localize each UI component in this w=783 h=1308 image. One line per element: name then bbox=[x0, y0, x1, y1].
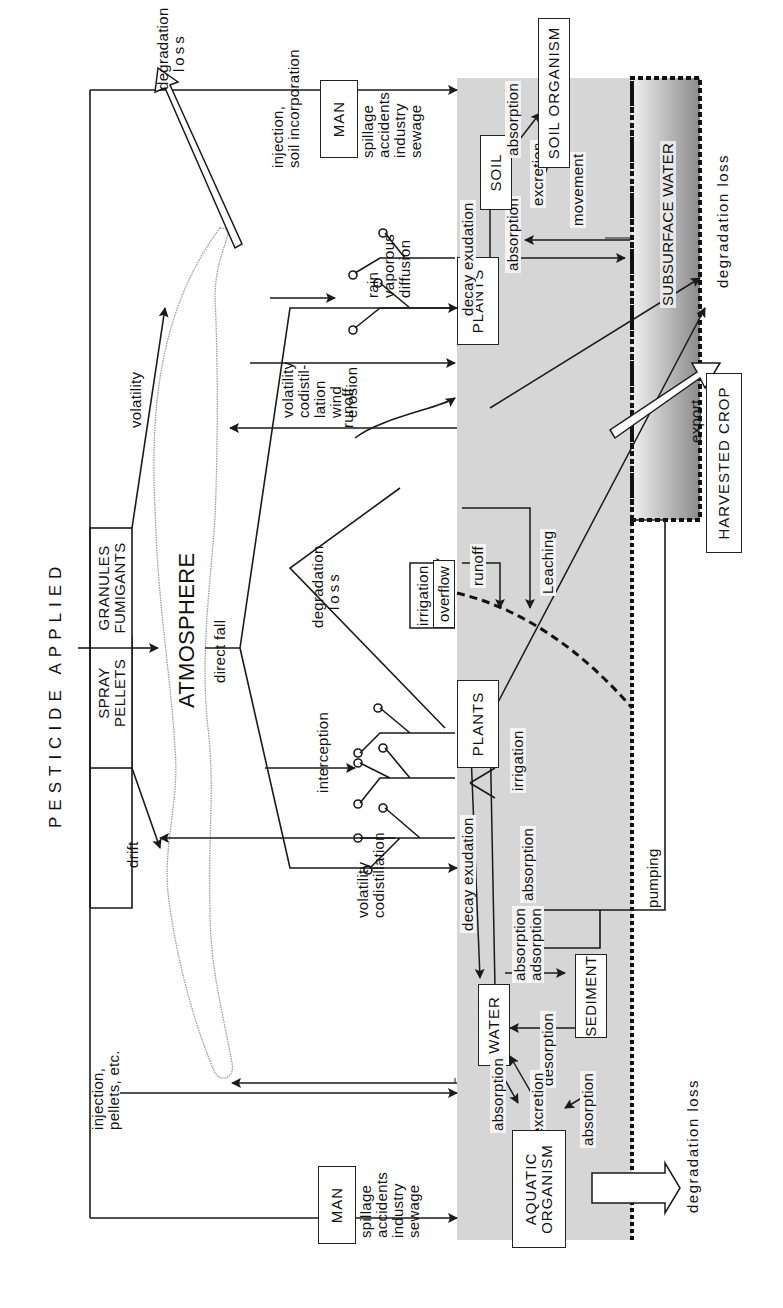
degradation-loss-aquatic-label: degradation loss bbox=[685, 1079, 701, 1213]
absorption-adsorption-label: absorption adsorption bbox=[512, 906, 544, 983]
absorption-aquatic-2-label: absorption bbox=[580, 1071, 596, 1148]
volatility-text: volatility bbox=[280, 362, 296, 418]
sewage-text: sewage bbox=[406, 1172, 422, 1238]
organism-text: ORGANISM bbox=[539, 1144, 555, 1234]
soil-organism-box: SOIL ORGANISM bbox=[538, 18, 570, 168]
drift-label: drift bbox=[125, 841, 141, 868]
excretion-aquatic-label: excretion bbox=[530, 1070, 546, 1138]
degradation-loss-mid-label: degradation loss bbox=[310, 545, 342, 628]
overflow-box: overflow bbox=[433, 560, 455, 628]
decay-exudation-water-label: decay exudation bbox=[460, 815, 476, 933]
adsorption-text: adsorption bbox=[528, 908, 544, 981]
codistillation-text: codistillation bbox=[371, 832, 387, 918]
export-label: export bbox=[688, 400, 704, 444]
injection-text: injection, bbox=[270, 49, 286, 168]
volatility-text: volatility bbox=[355, 832, 371, 918]
diagram-title: PESTICIDE APPLIED bbox=[48, 561, 64, 828]
spray-label: SPRAY bbox=[96, 653, 112, 733]
man-sources-right: spillage accidents industry sewage bbox=[360, 92, 424, 158]
industry-text: industry bbox=[390, 1172, 406, 1238]
rain-text: rain bbox=[365, 234, 381, 298]
codistil-text: codistil- bbox=[296, 362, 312, 418]
soil-incorporation-text: soil incorporation bbox=[286, 49, 302, 168]
subsurface-water-label: SUBSURFACE WATER bbox=[660, 141, 676, 308]
absorption-aquatic-1-label: absorption bbox=[490, 1056, 506, 1133]
fumigants-label: FUMIGANTS bbox=[112, 533, 128, 643]
degradation-text: degradation bbox=[155, 7, 171, 90]
vaporous-text: vaporous bbox=[381, 234, 397, 298]
soil-organism-absorption-label: absorption bbox=[505, 81, 521, 158]
irrigation-ground-label: irrigation bbox=[510, 728, 526, 793]
pellets-label: PELLETS bbox=[112, 653, 128, 733]
injection-text: injection, bbox=[90, 1050, 106, 1130]
interception-label: interception bbox=[315, 712, 331, 793]
irrigation-top-label: irrigation bbox=[415, 565, 431, 626]
harvested-crop-box: HARVESTED CROP bbox=[706, 373, 742, 553]
loss-text: loss bbox=[171, 7, 187, 90]
degradation-text: degradation bbox=[310, 545, 326, 628]
spillage-text: spillage bbox=[358, 1172, 374, 1238]
man-sources-left: spillage accidents industry sewage bbox=[358, 1172, 422, 1238]
aquatic-organism-box: AQUATIC ORGANISM bbox=[512, 1130, 566, 1248]
direct-fall-label: direct fall bbox=[212, 620, 228, 683]
man-box-right: MAN bbox=[320, 80, 358, 158]
injection-soil-label: injection, soil incorporation bbox=[270, 49, 302, 168]
injection-pellets-label: injection, pellets, etc. bbox=[90, 1050, 122, 1130]
accidents-text: accidents bbox=[376, 92, 392, 158]
water-box: WATER bbox=[478, 984, 510, 1066]
aquatic-text: AQUATIC bbox=[523, 1153, 539, 1226]
spillage-text: spillage bbox=[360, 92, 376, 158]
runoff-plants-label: runoff bbox=[340, 388, 356, 428]
volatility-label: volatility bbox=[128, 372, 144, 428]
granules-label: GRANULES bbox=[96, 533, 112, 643]
absorption-text: absorption bbox=[512, 908, 528, 981]
leaching-label: Leaching bbox=[540, 529, 556, 596]
accidents-text: accidents bbox=[374, 1172, 390, 1238]
loss-text: loss bbox=[326, 545, 342, 628]
pumping-label: pumping bbox=[645, 848, 661, 908]
industry-text: industry bbox=[392, 92, 408, 158]
absorption-water-plants-label: absorption bbox=[520, 826, 536, 903]
decay-exudation-soil-label: decay exudation bbox=[460, 200, 476, 318]
lation-text: lation bbox=[312, 362, 328, 418]
man-box-left: MAN bbox=[318, 1166, 356, 1244]
degradation-loss-subsurface-label: degradation loss bbox=[715, 154, 731, 288]
atmosphere-label: ATMOSPHERE bbox=[175, 553, 199, 708]
granules-fumigants-label: GRANULES FUMIGANTS bbox=[96, 533, 128, 643]
pesticide-fate-diagram: PESTICIDE APPLIED SPRAY PELLETS GRANULES… bbox=[0, 0, 783, 1308]
diffusion-text: diffusion bbox=[397, 234, 413, 298]
sewage-text: sewage bbox=[408, 92, 424, 158]
sediment-box: SEDIMENT bbox=[575, 954, 607, 1038]
plants-box-left: PLANTS bbox=[457, 680, 499, 768]
spray-pellets-label: SPRAY PELLETS bbox=[96, 653, 128, 733]
runoff-ground-label: runoff bbox=[470, 544, 486, 588]
rain-vaporous-diffusion-label: rain vaporous diffusion bbox=[365, 234, 413, 298]
degradation-loss-top-label: degradation loss bbox=[155, 7, 187, 90]
movement-label: movement bbox=[570, 152, 586, 228]
volatility-codistillation-label: volatility codistillation bbox=[355, 832, 387, 918]
pellets-etc-text: pellets, etc. bbox=[106, 1050, 122, 1130]
